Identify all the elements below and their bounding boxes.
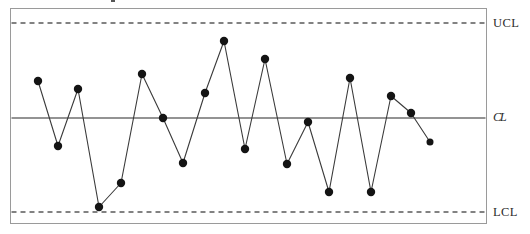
- series-polyline: [38, 41, 430, 207]
- data-point-marker: [179, 159, 187, 167]
- data-point-marker: [427, 139, 434, 146]
- figure-canvas: UCL CL LCL: [0, 0, 530, 234]
- data-point-marker: [283, 160, 291, 168]
- series-marker-group: [34, 37, 434, 211]
- cl-center-line-label: CL: [493, 111, 505, 124]
- data-point-marker: [346, 74, 354, 82]
- lcl-limit-label: LCL: [493, 206, 518, 219]
- data-point-marker: [117, 179, 125, 187]
- data-point-marker: [387, 92, 395, 100]
- data-point-marker: [325, 188, 333, 196]
- data-point-marker: [304, 118, 312, 126]
- data-point-marker: [54, 142, 62, 150]
- data-point-marker: [138, 70, 146, 78]
- series-line-group: [38, 41, 430, 207]
- data-point-marker: [74, 85, 82, 93]
- data-point-marker: [34, 77, 42, 85]
- data-point-marker: [159, 114, 167, 122]
- data-point-marker: [201, 89, 209, 97]
- data-point-marker: [241, 145, 249, 153]
- data-point-marker: [261, 55, 269, 63]
- data-point-marker: [367, 188, 375, 196]
- data-point-marker: [220, 37, 228, 45]
- ucl-limit-label: UCL: [493, 17, 519, 30]
- data-point-marker: [95, 203, 103, 211]
- control-chart-plot: [0, 0, 530, 234]
- data-point-marker: [407, 109, 415, 117]
